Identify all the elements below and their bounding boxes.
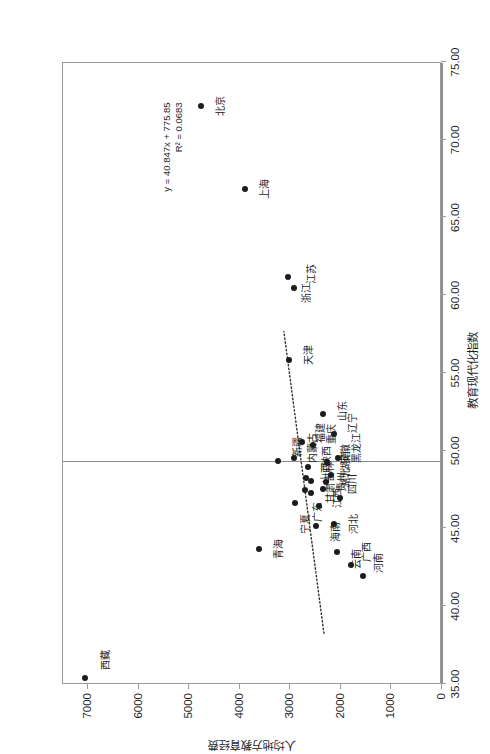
data-point bbox=[310, 442, 316, 448]
y-axis-tick-label: 5000 bbox=[182, 693, 194, 740]
y-axis-tick bbox=[188, 684, 189, 689]
x-axis-tick-label: 45.00 bbox=[449, 514, 461, 543]
y-axis-tick bbox=[390, 684, 391, 689]
data-point-label: 河南 bbox=[370, 553, 385, 573]
data-point bbox=[82, 675, 88, 681]
y-axis-tick bbox=[441, 684, 442, 689]
data-point bbox=[198, 103, 204, 109]
data-point bbox=[256, 546, 262, 552]
y-axis-tick-label: 7000 bbox=[81, 693, 93, 740]
x-axis-tick-label: 55.00 bbox=[449, 359, 461, 388]
x-axis-title: 教育现代化指数 bbox=[464, 332, 480, 409]
trendline-equation-annotation: y = 40.847x + 775.85 R² = 0.0683 bbox=[161, 102, 185, 191]
data-point bbox=[291, 455, 297, 461]
x-axis-tick bbox=[441, 450, 446, 451]
trendline-r2-text: R² = 0.0683 bbox=[173, 102, 185, 191]
x-axis-tick-label: 60.00 bbox=[449, 281, 461, 310]
y-axis-tick bbox=[340, 684, 341, 689]
y-axis-tick-label: 0 bbox=[435, 693, 447, 740]
data-point-label: 河北 bbox=[345, 514, 360, 534]
y-axis-tick-label: 3000 bbox=[283, 693, 295, 740]
y-axis-tick bbox=[289, 684, 290, 689]
x-axis-tick-label: 75.00 bbox=[449, 48, 461, 77]
data-point-label: 浙江 bbox=[298, 283, 313, 303]
data-point-label: 青海 bbox=[270, 539, 285, 559]
data-point bbox=[360, 573, 366, 579]
data-point-label: 四川 bbox=[344, 474, 359, 494]
data-point bbox=[316, 503, 322, 509]
data-point bbox=[275, 458, 281, 464]
data-point bbox=[308, 490, 314, 496]
y-axis-tick bbox=[239, 684, 240, 689]
x-axis-tick-label: 70.00 bbox=[449, 125, 461, 154]
data-point bbox=[308, 478, 314, 484]
data-point-label: 江苏 bbox=[303, 264, 318, 284]
x-axis-tick-label: 50.00 bbox=[449, 436, 461, 465]
data-point-label: 湖南 bbox=[337, 451, 352, 471]
y-axis-tick-label: 1000 bbox=[384, 693, 396, 740]
data-point-label: 西藏 bbox=[97, 650, 112, 670]
y-axis-tick-label: 6000 bbox=[132, 693, 144, 740]
x-axis-tick-label: 40.00 bbox=[449, 592, 461, 621]
data-point-label: 辽宁 bbox=[344, 413, 359, 433]
x-axis-tick-label: 35.00 bbox=[449, 670, 461, 699]
data-point bbox=[292, 500, 298, 506]
data-point bbox=[334, 549, 340, 555]
data-point bbox=[328, 472, 334, 478]
data-point bbox=[323, 479, 329, 485]
data-point bbox=[242, 186, 248, 192]
x-axis-tick bbox=[441, 294, 446, 295]
y-axis-tick-label: 4000 bbox=[233, 693, 245, 740]
y-axis-title: 人均地方教育经费 bbox=[208, 738, 296, 754]
x-axis-tick bbox=[441, 61, 446, 62]
data-point bbox=[331, 431, 337, 437]
x-axis-tick bbox=[441, 139, 446, 140]
data-point bbox=[324, 459, 330, 465]
data-point bbox=[313, 523, 319, 529]
data-point bbox=[303, 475, 309, 481]
x-axis-tick bbox=[441, 605, 446, 606]
data-point bbox=[305, 464, 311, 470]
x-axis-tick bbox=[441, 217, 446, 218]
data-point-label: 天津 bbox=[300, 345, 315, 365]
data-point bbox=[285, 274, 291, 280]
data-point bbox=[331, 521, 337, 527]
data-point bbox=[291, 285, 297, 291]
x-axis-tick bbox=[441, 372, 446, 373]
data-point bbox=[320, 486, 326, 492]
y-axis-tick bbox=[138, 684, 139, 689]
data-point bbox=[320, 411, 326, 417]
data-point bbox=[337, 495, 343, 501]
y-axis-tick-label: 2000 bbox=[334, 693, 346, 740]
plot-area: 西藏北京上海青海新疆天津江苏浙江宁夏内蒙古广东福建陕西吉林甘肃山西重庆海南江西贵… bbox=[62, 62, 441, 684]
data-point bbox=[286, 357, 292, 363]
trendline-equation-text: y = 40.847x + 775.85 bbox=[161, 102, 173, 191]
x-axis-tick bbox=[441, 528, 446, 529]
data-point bbox=[299, 439, 305, 445]
trendline bbox=[63, 61, 442, 683]
y-axis-tick bbox=[87, 684, 88, 689]
x-axis-tick-label: 65.00 bbox=[449, 203, 461, 232]
data-point-label: 北京 bbox=[212, 96, 227, 116]
data-point bbox=[348, 562, 354, 568]
data-point-label: 上海 bbox=[256, 179, 271, 199]
